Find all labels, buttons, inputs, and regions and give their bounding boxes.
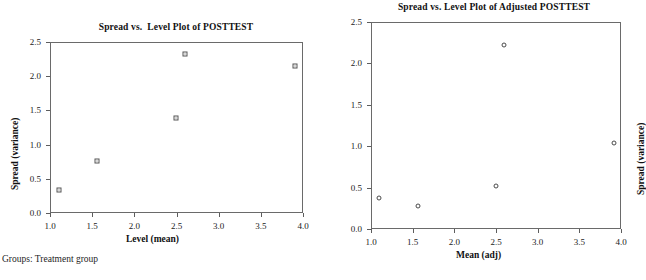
x-tick-mark: [92, 213, 93, 217]
y-tick-mark: [367, 63, 371, 64]
data-point-marker: [415, 203, 420, 208]
x-tick-label: 2.5: [164, 221, 190, 231]
data-point-marker: [182, 52, 187, 57]
x-tick-mark: [261, 213, 262, 217]
x-tick-label: 4.0: [290, 221, 316, 231]
x-tick-mark: [303, 213, 304, 217]
x-tick-mark: [50, 213, 51, 217]
y-tick-label: 2.0: [19, 71, 41, 81]
x-tick-label: 1.5: [79, 221, 105, 231]
x-tick-mark: [454, 229, 455, 233]
y-tick-mark: [46, 145, 50, 146]
x-tick-label: 3.0: [206, 221, 232, 231]
y-tick-mark: [46, 42, 50, 43]
y-tick-label: 1.0: [19, 140, 41, 150]
x-tick-mark: [177, 213, 178, 217]
data-point-marker: [502, 43, 507, 48]
plot-area-posttest: [50, 42, 303, 213]
y-tick-label: 1.0: [340, 141, 362, 151]
y-axis-label-posttest: Spread (variance): [10, 118, 20, 190]
data-point-marker: [494, 183, 499, 188]
y-tick-label: 2.0: [340, 58, 362, 68]
x-tick-label: 1.5: [400, 237, 426, 247]
y-tick-label: 1.5: [19, 105, 41, 115]
y-tick-label: 1.5: [340, 100, 362, 110]
x-tick-label: 2.5: [483, 237, 509, 247]
x-tick-label: 3.5: [566, 237, 592, 247]
x-axis-label-posttest: Level (mean): [126, 234, 179, 244]
y-tick-mark: [367, 188, 371, 189]
x-tick-label: 2.0: [441, 237, 467, 247]
x-tick-mark: [579, 229, 580, 233]
y-tick-label: 2.5: [340, 17, 362, 27]
data-point-marker: [611, 140, 616, 145]
x-tick-mark: [496, 229, 497, 233]
data-point-marker: [57, 187, 62, 192]
x-tick-mark: [413, 229, 414, 233]
x-tick-label: 3.5: [248, 221, 274, 231]
chart-title-posttest: Spread vs. Level Plot of POSTTEST: [38, 22, 314, 32]
x-tick-label: 1.0: [358, 237, 384, 247]
y-tick-label: 0.5: [340, 183, 362, 193]
y-tick-label: 0.0: [340, 224, 362, 234]
data-point-marker: [293, 63, 298, 68]
x-tick-label: 4.0: [608, 237, 634, 247]
chart-panel-adjusted-posttest: Spread vs. Level Plot of Adjusted POSTTE…: [316, 0, 632, 280]
chart-title-adjusted-posttest: Spread vs. Level Plot of Adjusted POSTTE…: [368, 2, 620, 12]
x-axis-label-adjusted-posttest: Mean (adj): [456, 250, 501, 260]
x-tick-mark: [621, 229, 622, 233]
y-tick-mark: [46, 179, 50, 180]
y-tick-mark: [367, 22, 371, 23]
x-tick-mark: [538, 229, 539, 233]
y-tick-label: 0.0: [19, 208, 41, 218]
data-point-marker: [95, 159, 100, 164]
plot-area-adjusted-posttest: [371, 22, 621, 229]
y-tick-mark: [46, 110, 50, 111]
x-tick-mark: [371, 229, 372, 233]
y-axis-label-adjusted-posttest: Spread (variance): [636, 123, 646, 195]
chart-panel-posttest: Spread vs. Level Plot of POSTTEST 0.00.5…: [0, 0, 320, 280]
figure-caption: Groups: Treatment group: [2, 254, 98, 264]
x-tick-mark: [219, 213, 220, 217]
y-tick-mark: [367, 105, 371, 106]
x-tick-label: 2.0: [121, 221, 147, 231]
x-tick-label: 1.0: [37, 221, 63, 231]
y-tick-label: 2.5: [19, 37, 41, 47]
y-tick-mark: [46, 76, 50, 77]
data-point-marker: [377, 196, 382, 201]
y-tick-mark: [367, 146, 371, 147]
data-point-marker: [173, 115, 178, 120]
x-tick-label: 3.0: [525, 237, 551, 247]
x-tick-mark: [134, 213, 135, 217]
y-tick-label: 0.5: [19, 174, 41, 184]
